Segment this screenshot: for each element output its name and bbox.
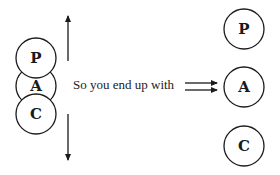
double-arrow-icon (185, 83, 217, 90)
right-stack: P A C (224, 9, 264, 166)
left-label-p: P (30, 49, 41, 67)
right-label-c: C (238, 137, 250, 155)
left-label-a: A (29, 77, 42, 95)
right-label-a: A (237, 78, 250, 96)
right-label-p: P (238, 20, 249, 38)
caption-text: So you end up with (73, 77, 174, 93)
left-stack: P A C (16, 38, 56, 134)
left-label-c: C (30, 105, 42, 123)
